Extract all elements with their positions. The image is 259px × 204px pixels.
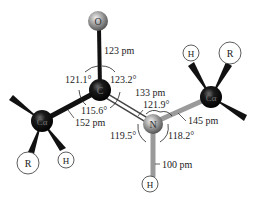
svg-text:R: R <box>227 48 234 59</box>
label-angle-calpha-c-n: 115.6° <box>81 105 107 116</box>
group-r-right: R <box>219 42 241 64</box>
bond-c-o <box>99 28 100 88</box>
label-n-h-length: 100 pm <box>162 159 193 170</box>
atom-oxygen: O <box>88 11 108 31</box>
hydrogen-amide: H <box>142 176 158 192</box>
label-angle-c-n-h: 119.5° <box>110 130 136 141</box>
atom-alpha-carbon-left: Cα <box>31 110 53 132</box>
svg-text:Cα: Cα <box>37 117 48 127</box>
labels: 123 pm 121.1° 123.2° 133 pm 121.9° 115.6… <box>65 45 219 170</box>
label-angle-calpha-c-o: 121.1° <box>65 74 92 85</box>
label-angle-calpha-n-h: 118.2° <box>168 130 194 141</box>
peptide-bond-diagram: O C Cα N Cα R H H R H <box>0 0 259 204</box>
label-n-calpha-length: 145 pm <box>188 115 219 126</box>
label-c-n-length: 133 pm <box>135 87 166 98</box>
svg-text:H: H <box>63 156 70 166</box>
label-c-o-length: 123 pm <box>104 45 135 56</box>
label-calpha-c-length: 152 pm <box>75 117 106 128</box>
atom-carbonyl-carbon: C <box>89 79 111 101</box>
atom-alpha-carbon-right: Cα <box>200 86 222 108</box>
svg-text:H: H <box>147 180 154 190</box>
svg-text:N: N <box>149 119 156 130</box>
hydrogen-right: H <box>183 45 199 61</box>
group-r-left: R <box>17 152 39 174</box>
svg-text:Cα: Cα <box>206 93 217 103</box>
label-angle-c-n-calpha: 121.9° <box>143 99 170 110</box>
svg-text:R: R <box>25 158 32 169</box>
hydrogen-left: H <box>58 152 74 168</box>
svg-text:O: O <box>94 16 101 27</box>
atom-nitrogen: N <box>143 114 163 134</box>
label-angle-o-c-n: 123.2° <box>110 74 137 85</box>
svg-text:H: H <box>188 49 195 59</box>
svg-text:C: C <box>97 85 104 96</box>
